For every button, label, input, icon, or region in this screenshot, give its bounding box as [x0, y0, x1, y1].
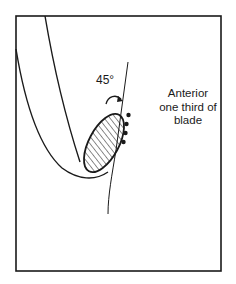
curved-band-inner — [45, 16, 80, 162]
angle-label: 45° — [96, 73, 114, 87]
annotation-line-2: one third of — [140, 101, 236, 115]
annotation-line-1: Anterior — [140, 87, 236, 101]
anterior-annotation: Anterior one third of blade — [140, 87, 236, 128]
annotation-line-3: blade — [140, 114, 236, 128]
angle-arrow-icon — [106, 96, 123, 104]
diagram-figure — [0, 0, 236, 284]
